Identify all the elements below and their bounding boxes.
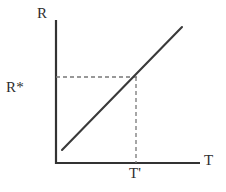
data-line-series xyxy=(62,27,182,150)
x-value-label-t-prime: T' xyxy=(129,166,141,181)
plot-area xyxy=(0,0,226,192)
line-chart-figure: R T R* T' xyxy=(0,0,226,192)
y-value-label-r-star: R* xyxy=(6,80,24,95)
x-axis-label: T xyxy=(204,153,213,168)
y-axis-label: R xyxy=(37,6,47,21)
